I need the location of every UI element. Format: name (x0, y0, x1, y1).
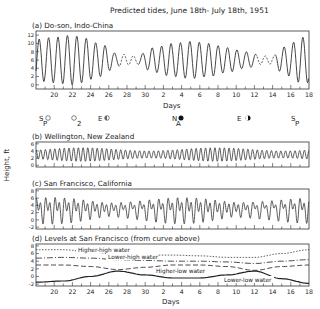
y-tick-label: 12 (27, 32, 34, 38)
y-tick-label: 0 (31, 162, 34, 168)
x-tick-label: 14 (269, 91, 277, 98)
full-moon-icon (46, 116, 51, 121)
y-axis-label: Height, ft (3, 148, 11, 181)
x-tick-label: 10 (232, 288, 240, 295)
y-tick-label: -2 (29, 281, 34, 287)
y-tick-label: 6 (31, 141, 34, 147)
y-tick-label: 10 (27, 40, 34, 46)
panel-b-title: (b) Wellington, New Zealand (32, 132, 134, 141)
x-tick-label: 16 (287, 91, 295, 98)
panel-a-frame (36, 31, 309, 89)
y-tick-label: 8 (31, 188, 34, 194)
y-tick-label: 2 (31, 266, 34, 272)
x-tick-label: 18 (305, 91, 313, 98)
astro-sub-label: A (176, 120, 181, 128)
label-lower-low-water: Lower-low water (224, 277, 272, 283)
panel-a-xticks: 20222426283024681012141618 (45, 85, 313, 98)
y-tick-label: 0 (31, 217, 34, 223)
x-tick-label: 4 (180, 288, 184, 295)
y-tick-label: 2 (31, 155, 34, 161)
full-moon-icon (72, 116, 77, 121)
x-tick-label: 24 (87, 91, 95, 98)
x-tick-label: 30 (141, 91, 149, 98)
panel-a: (a) Do-son, Indo-China 121086420 2022242… (27, 21, 313, 110)
label-lower-high-water: Lower-high water (108, 254, 159, 261)
panel-d-title: (d) Levels at San Francisco (from curve … (32, 234, 200, 243)
y-tick-label: 4 (31, 65, 35, 71)
astro-label: E (98, 115, 102, 123)
x-tick-label: 20 (50, 288, 58, 295)
y-tick-label: 4 (31, 258, 35, 264)
astronomical-markers: SP2ENAESP (39, 115, 299, 128)
x-tick-label: 10 (232, 91, 240, 98)
figure-title: Predicted tides, June 18th- July 18th, 1… (110, 6, 269, 15)
panel-a-title: (a) Do-son, Indo-China (32, 21, 113, 30)
y-tick-label: 4 (31, 202, 35, 208)
x-tick-label: 26 (105, 288, 113, 295)
astro-label: E (237, 115, 241, 123)
x-tick-label: 2 (161, 288, 165, 295)
san-francisco-tide-curve (36, 198, 309, 225)
x-tick-label: 22 (68, 91, 76, 98)
panel-a-xlabel: Days (163, 102, 181, 110)
panel-d-xlabel: Days (162, 298, 180, 306)
new-moon-icon (179, 116, 184, 121)
astro-marker: E (237, 115, 251, 123)
y-tick-label: 6 (31, 250, 34, 256)
wellington-tide-curve (36, 148, 309, 162)
x-tick-label: 6 (198, 91, 202, 98)
lower-high-water-line (36, 257, 309, 263)
x-tick-label: 12 (250, 288, 258, 295)
x-tick-label: 14 (269, 288, 277, 295)
x-tick-label: 28 (123, 91, 131, 98)
y-tick-label: -2 (29, 224, 34, 230)
y-tick-label: 0 (31, 82, 34, 88)
y-tick-label: 8 (31, 49, 34, 55)
x-tick-label: 20 (50, 91, 58, 98)
y-tick-label: 4 (31, 148, 35, 154)
astro-marker: SP (39, 115, 50, 128)
panel-b-xticks (45, 163, 300, 167)
tide-figure: Predicted tides, June 18th- July 18th, 1… (0, 0, 320, 309)
astro-sub-label: P (295, 120, 299, 128)
y-tick-label: 8 (31, 243, 34, 249)
y-tick-label: 6 (31, 57, 34, 63)
y-tick-label: 2 (31, 209, 34, 215)
do-son-tide-curve (36, 36, 309, 85)
panel-c: (c) San Francisco, California 86420-2 (29, 179, 309, 230)
x-tick-label: 16 (287, 288, 295, 295)
astro-marker: E (98, 115, 109, 123)
x-tick-label: 30 (141, 288, 149, 295)
label-higher-low-water: Higher-low water (156, 268, 206, 275)
x-tick-label: 8 (216, 91, 220, 98)
x-tick-label: 18 (305, 288, 313, 295)
panel-b-yticks: 6420 (31, 141, 39, 168)
panel-d-xticks: 20222426283024681012141618 (45, 282, 313, 295)
x-tick-label: 22 (68, 288, 76, 295)
astro-marker: 2 (72, 116, 82, 128)
panel-b: (b) Wellington, New Zealand 6420 (31, 132, 309, 168)
astro-marker: NA (172, 115, 184, 128)
astro-marker: SP (291, 115, 299, 128)
x-tick-label: 24 (87, 288, 95, 295)
y-tick-label: 6 (31, 195, 34, 201)
x-tick-label: 28 (123, 288, 131, 295)
x-tick-label: 2 (161, 91, 165, 98)
panel-d: (d) Levels at San Francisco (from curve … (29, 234, 313, 306)
panel-c-xticks (45, 225, 300, 229)
x-tick-label: 26 (105, 91, 113, 98)
y-tick-label: 2 (31, 73, 34, 79)
x-tick-label: 8 (216, 288, 220, 295)
x-tick-label: 6 (198, 288, 202, 295)
panel-c-title: (c) San Francisco, California (32, 179, 132, 188)
panel-c-yticks: 86420-2 (29, 188, 39, 230)
x-tick-label: 4 (180, 91, 184, 98)
astro-sub-label: P (43, 120, 47, 128)
y-tick-label: 0 (31, 273, 34, 279)
x-tick-label: 12 (250, 91, 258, 98)
label-higher-high-water: Higher-high water (78, 247, 131, 254)
astro-sub-label: 2 (77, 120, 81, 128)
